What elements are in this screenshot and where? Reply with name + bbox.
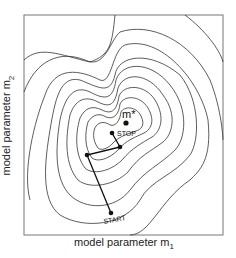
start-point: [109, 211, 114, 216]
start-label: START: [103, 214, 127, 225]
y-axis-label: model parameter m2: [0, 66, 15, 186]
stop-label: STOP: [117, 130, 136, 137]
optimum-label: m*: [122, 108, 136, 120]
path-point: [118, 145, 123, 150]
contour-lines: [24, 15, 223, 235]
path-point: [85, 153, 90, 158]
x-axis-label: model parameter m1: [24, 236, 224, 251]
plot-frame: [24, 15, 223, 235]
descent-path: [87, 133, 120, 213]
contour-plot: m* STOP START: [0, 0, 236, 258]
stop-point: [110, 131, 115, 136]
optimum-point: [123, 120, 128, 125]
